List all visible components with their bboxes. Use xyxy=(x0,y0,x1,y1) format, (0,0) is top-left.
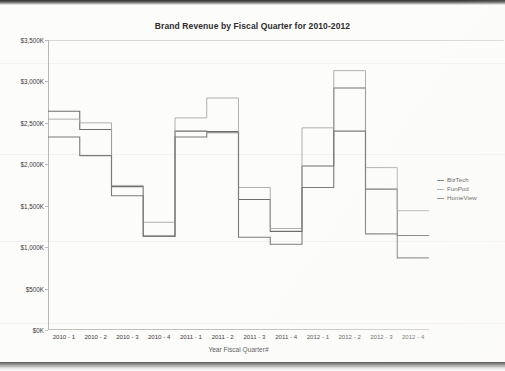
x-tick-label: 2012 - 2 xyxy=(338,333,360,340)
series-lines-group xyxy=(48,40,429,330)
x-tick-label: 2012 - 1 xyxy=(307,333,329,340)
x-tick-label: 2010 - 1 xyxy=(53,333,75,340)
x-tick-label: 2011 - 4 xyxy=(275,333,297,340)
y-tick-label: $500K xyxy=(26,285,44,292)
y-tick-label: $0K xyxy=(33,327,44,334)
legend-label-funpod: FunPod xyxy=(447,185,469,193)
x-tick-label: 2011 - 1 xyxy=(180,333,202,340)
legend-swatch-biztech xyxy=(437,180,444,181)
x-tick-label: 2012 - 4 xyxy=(402,333,424,340)
y-tick-label: $2,500K xyxy=(21,119,44,126)
y-tick-label: $3,000K xyxy=(21,78,44,85)
legend-item-homeview[interactable]: HomeView xyxy=(437,194,499,202)
x-axis-title: Year Fiscal Quarter# xyxy=(48,346,429,353)
y-tick-label: $2,000K xyxy=(21,161,44,168)
x-tick-label: 2012 - 3 xyxy=(370,333,392,340)
scan-bottom-edge xyxy=(0,362,505,371)
legend-swatch-homeview xyxy=(437,198,444,199)
chart-legend: BizTech FunPod HomeView xyxy=(437,176,499,203)
x-tick-label: 2011 - 2 xyxy=(212,333,234,340)
x-tick-label: 2010 - 2 xyxy=(84,333,106,340)
x-tick-label: 2011 - 3 xyxy=(243,333,265,340)
y-tick-label: $3,500K xyxy=(21,37,44,44)
chart-plot-area: $0K$500K$1,000K$1,500K$2,000K$2,500K$3,0… xyxy=(48,40,429,330)
legend-item-biztech[interactable]: BizTech xyxy=(437,176,499,184)
chart-title: Brand Revenue by Fiscal Quarter for 2010… xyxy=(0,21,505,31)
y-tick-label: $1,500K xyxy=(21,202,44,209)
x-tick-label: 2010 - 4 xyxy=(148,333,170,340)
legend-label-biztech: BizTech xyxy=(447,176,469,184)
series-line-homeview xyxy=(48,131,429,258)
legend-item-funpod[interactable]: FunPod xyxy=(437,185,499,193)
x-tick-label: 2010 - 3 xyxy=(116,333,138,340)
y-tick-label: $1,000K xyxy=(21,244,44,251)
y-tick-mark xyxy=(45,330,48,331)
scanned-page: Brand Revenue by Fiscal Quarter for 2010… xyxy=(0,5,505,362)
legend-swatch-funpod xyxy=(437,189,444,190)
legend-label-homeview: HomeView xyxy=(447,194,477,202)
